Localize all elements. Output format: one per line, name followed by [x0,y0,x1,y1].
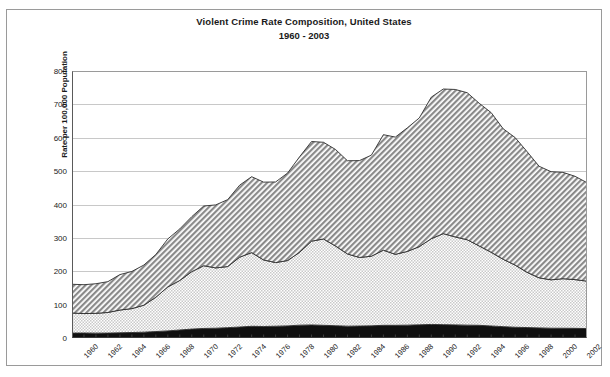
y-tick-label: 0 [63,334,67,343]
x-axis-tickmarks [72,71,587,338]
x-tick-label: 1994 [489,342,507,360]
x-tick-label: 2000 [561,342,579,360]
chart-title-line2: 1960 - 2003 [7,30,601,41]
y-tick-label: 700 [54,100,67,109]
x-tick-label: 1978 [297,342,315,360]
x-tick-label: 1966 [154,342,172,360]
y-tick-label: 800 [54,67,67,76]
x-tick-label: 1998 [537,342,555,360]
x-tick-label: 1972 [226,342,244,360]
y-tick-label: 200 [54,267,67,276]
x-tick-label: 1968 [178,342,196,360]
y-tick-label: 100 [54,300,67,309]
x-tick-label: 1974 [250,342,268,360]
y-tick-label: 300 [54,233,67,242]
x-tick-label: 1970 [202,342,220,360]
x-axis-ticks: 1960196219641966196819701972197419761978… [72,338,587,377]
chart-title: Violent Crime Rate Composition, United S… [7,16,601,41]
y-tick-label: 600 [54,133,67,142]
x-tick-label: 1992 [465,342,483,360]
plot-area: 0100200300400500600700800 19601962196419… [72,71,587,338]
x-tick-label: 1964 [130,342,148,360]
chart-figure: Violent Crime Rate Composition, United S… [6,9,602,366]
x-tick-label: 1988 [417,342,435,360]
x-tick-label: 1980 [321,342,339,360]
x-tick-label: 1996 [513,342,531,360]
x-tick-label: 1990 [441,342,459,360]
x-tick-label: 1986 [393,342,411,360]
y-tick-label: 400 [54,200,67,209]
chart-title-line1: Violent Crime Rate Composition, United S… [7,16,601,27]
x-tick-label: 1984 [369,342,387,360]
x-tick-label: 2002 [585,342,603,360]
x-tick-label: 1960 [82,342,100,360]
y-tick-label: 500 [54,167,67,176]
x-tick-label: 1976 [274,342,292,360]
x-tick-label: 1962 [106,342,124,360]
x-tick-label: 1982 [345,342,363,360]
